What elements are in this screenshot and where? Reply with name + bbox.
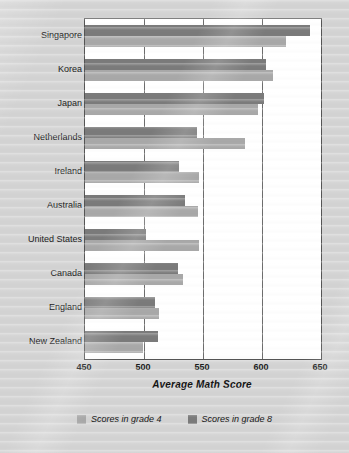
bar-grade4 — [85, 342, 143, 353]
bar-grade8 — [85, 93, 264, 104]
bar-grade8 — [85, 59, 266, 70]
plot-area — [84, 18, 322, 360]
x-axis-title: Average Math Score — [84, 379, 320, 390]
category-label: Canada — [6, 268, 82, 278]
bar-grade8 — [85, 297, 155, 308]
bar-grade4 — [85, 274, 183, 285]
category-label: England — [6, 302, 82, 312]
x-tick-label-450: 450 — [64, 362, 104, 372]
bar-grade8 — [85, 331, 158, 342]
chart-legend: Scores in grade 4Scores in grade 8 — [0, 414, 349, 424]
legend-swatch-icon — [188, 415, 197, 424]
bar-grade4 — [85, 36, 286, 47]
category-label: United States — [6, 234, 82, 244]
bar-grade4 — [85, 308, 159, 319]
bar-grade8 — [85, 195, 185, 206]
bar-grade8 — [85, 229, 146, 240]
x-axis-ticks: 450500550600650 — [0, 362, 349, 376]
chart-figure: SingaporeKoreaJapanNetherlandsIrelandAus… — [0, 0, 349, 453]
bar-grade8 — [85, 263, 178, 274]
bar-grade8 — [85, 127, 197, 138]
x-tick-label-500: 500 — [123, 362, 163, 372]
category-label: Ireland — [6, 166, 82, 176]
bar-grade4 — [85, 172, 199, 183]
bar-grade4 — [85, 104, 258, 115]
legend-swatch-icon — [77, 415, 86, 424]
x-tick-label-550: 550 — [182, 362, 222, 372]
category-label: Japan — [6, 98, 82, 108]
category-label: Korea — [6, 64, 82, 74]
bar-grade8 — [85, 161, 179, 172]
legend-label: Scores in grade 8 — [202, 414, 273, 424]
category-label: Netherlands — [6, 132, 82, 142]
x-tick-label-600: 600 — [241, 362, 281, 372]
bar-grade4 — [85, 240, 199, 251]
x-tick-label-650: 650 — [300, 362, 340, 372]
category-axis: SingaporeKoreaJapanNetherlandsIrelandAus… — [6, 18, 82, 358]
category-label: Singapore — [6, 30, 82, 40]
bar-grade4 — [85, 138, 245, 149]
bar-grade8 — [85, 25, 310, 36]
legend-item[interactable]: Scores in grade 4 — [77, 414, 162, 424]
bar-grade4 — [85, 206, 198, 217]
category-label: New Zealand — [6, 336, 82, 346]
legend-item[interactable]: Scores in grade 8 — [188, 414, 273, 424]
legend-label: Scores in grade 4 — [91, 414, 162, 424]
category-label: Australia — [6, 200, 82, 210]
bar-grade4 — [85, 70, 273, 81]
